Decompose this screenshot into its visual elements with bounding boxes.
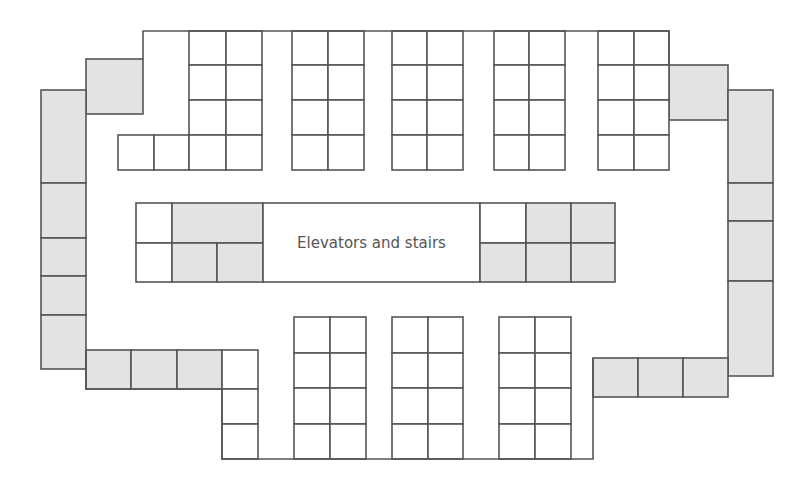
workstation (328, 100, 364, 135)
workstation (330, 353, 366, 388)
workstation (494, 100, 529, 135)
room-left-5 (41, 315, 86, 369)
room-core-l-1 (136, 203, 172, 243)
room-br-3 (683, 358, 728, 397)
workstation (189, 100, 226, 135)
cluster-top-2 (292, 31, 364, 170)
room-right-2 (728, 183, 773, 221)
workstation (292, 65, 328, 100)
workstation (499, 388, 535, 424)
workstation (634, 100, 669, 135)
workstation (294, 388, 330, 424)
room-br-1 (593, 358, 638, 397)
elevators-and-stairs-label: Elevators and stairs (263, 203, 480, 282)
workstation (598, 31, 634, 65)
room-left-3 (41, 238, 86, 276)
workstation (499, 353, 535, 388)
cluster-bottom-1 (294, 317, 366, 459)
cluster-top-4 (494, 31, 565, 170)
workstation (189, 65, 226, 100)
workstation (529, 31, 565, 65)
workstation (330, 388, 366, 424)
workstation (294, 317, 330, 353)
workstation (392, 65, 427, 100)
workstation (392, 353, 428, 388)
room-bl-3 (177, 350, 222, 389)
workstation (535, 353, 571, 388)
workstation (598, 135, 634, 170)
workstation (392, 388, 428, 424)
workstation (634, 31, 669, 65)
workstation (328, 65, 364, 100)
workstation (499, 424, 535, 459)
cluster-top-1 (189, 31, 262, 170)
room-core-r-2 (526, 203, 571, 243)
room-core-r-5 (526, 243, 571, 282)
room-core-r-4 (480, 243, 526, 282)
room-br-2 (638, 358, 683, 397)
workstation (226, 135, 262, 170)
workstation (428, 424, 463, 459)
room-right-3 (728, 221, 773, 281)
workstation (330, 424, 366, 459)
workstation (428, 353, 463, 388)
room-tl-small-2 (154, 135, 189, 170)
workstation (226, 65, 262, 100)
workstation (328, 135, 364, 170)
workstation (529, 65, 565, 100)
workstation (598, 65, 634, 100)
room-core-r-6 (571, 243, 615, 282)
cluster-bottom-3 (499, 317, 571, 459)
workstation (392, 135, 427, 170)
workstation (427, 100, 463, 135)
room-left-4 (41, 276, 86, 315)
room-bl-small-3 (222, 424, 258, 459)
room-tl-office (86, 59, 143, 114)
workstation (494, 65, 529, 100)
cluster-top-5 (598, 31, 669, 170)
workstation (427, 31, 463, 65)
workstation (598, 100, 634, 135)
workstation (226, 100, 262, 135)
workstation (226, 31, 262, 65)
workstation (392, 100, 427, 135)
workstation (392, 424, 428, 459)
workstation (292, 100, 328, 135)
workstation (428, 388, 463, 424)
room-core-l-4 (172, 243, 217, 282)
room-tl-small-1 (118, 135, 154, 170)
room-core-r-1 (480, 203, 526, 243)
cluster-top-3 (392, 31, 463, 170)
workstation (529, 135, 565, 170)
workstation (529, 100, 565, 135)
workstation (428, 317, 463, 353)
room-tr-office (669, 65, 728, 120)
workstation (535, 424, 571, 459)
workstation (499, 317, 535, 353)
room-right-4 (728, 281, 773, 376)
workstation (294, 424, 330, 459)
room-core-l-3 (172, 203, 263, 243)
room-bl-small-1 (222, 350, 258, 389)
workstation (427, 65, 463, 100)
room-core-l-5 (217, 243, 263, 282)
workstation (535, 388, 571, 424)
workstation (294, 353, 330, 388)
room-left-1 (41, 90, 86, 183)
room-core-r-3 (571, 203, 615, 243)
room-bl-2 (131, 350, 177, 389)
workstation (535, 317, 571, 353)
workstation (392, 317, 428, 353)
workstation (634, 65, 669, 100)
workstation (330, 317, 366, 353)
room-bl-small-2 (222, 389, 258, 424)
workstation (189, 31, 226, 65)
workstation (634, 135, 669, 170)
workstation (292, 135, 328, 170)
workstation (494, 135, 529, 170)
room-core-l-2 (136, 243, 172, 282)
room-left-2 (41, 183, 86, 238)
workstation (189, 135, 226, 170)
workstation (494, 31, 529, 65)
workstation (292, 31, 328, 65)
